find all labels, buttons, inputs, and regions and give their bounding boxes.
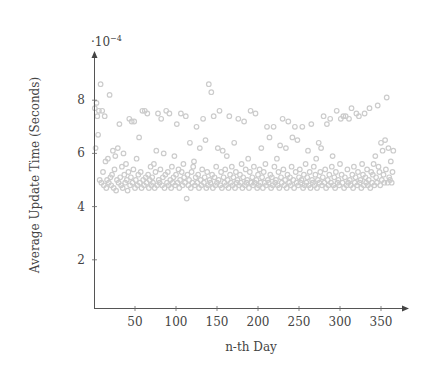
- data-point: [267, 135, 272, 140]
- data-point: [380, 148, 385, 153]
- y-tick-label: 2: [77, 253, 85, 267]
- data-point: [223, 167, 228, 172]
- data-point: [362, 111, 367, 116]
- data-point: [263, 162, 268, 167]
- data-point: [323, 167, 328, 172]
- data-point: [290, 135, 295, 140]
- data-point: [202, 175, 207, 180]
- data-point: [179, 111, 184, 116]
- data-point: [101, 170, 106, 175]
- x-tick-label: 350: [370, 315, 393, 329]
- data-point: [137, 135, 142, 140]
- scatter-points: [93, 82, 396, 201]
- data-point: [170, 164, 175, 169]
- data-point: [161, 151, 166, 156]
- y-scale-label: ·10−4: [91, 34, 122, 49]
- data-point: [345, 167, 350, 172]
- x-tick-label: 100: [165, 315, 188, 329]
- data-point: [246, 156, 251, 161]
- data-point: [321, 175, 326, 180]
- x-tick-label: 50: [127, 315, 142, 329]
- data-point: [121, 151, 126, 156]
- data-point: [152, 162, 157, 167]
- data-point: [293, 125, 298, 130]
- data-point: [194, 125, 199, 130]
- data-point: [280, 117, 285, 122]
- data-point: [390, 170, 395, 175]
- data-point: [316, 141, 321, 146]
- data-point: [349, 106, 354, 111]
- data-point: [112, 167, 117, 172]
- data-point: [102, 114, 107, 119]
- scatter-chart: 50100150200250300350 2468 ·10−4 n-th Day…: [0, 0, 428, 374]
- data-point: [156, 111, 161, 116]
- y-axis: [92, 51, 98, 308]
- data-point: [253, 111, 258, 116]
- data-point: [188, 141, 193, 146]
- data-point: [298, 167, 303, 172]
- y-tick-label: 8: [77, 93, 85, 107]
- data-point: [275, 156, 280, 161]
- data-point: [192, 159, 197, 164]
- data-point: [220, 148, 225, 153]
- data-point: [338, 162, 343, 167]
- data-point: [374, 175, 379, 180]
- data-point: [175, 122, 180, 127]
- data-point: [334, 109, 339, 114]
- data-point: [325, 122, 330, 127]
- data-point: [107, 93, 112, 98]
- data-point: [328, 117, 333, 122]
- data-point: [225, 154, 230, 159]
- x-tick-label: 250: [288, 315, 311, 329]
- data-point: [236, 117, 241, 122]
- data-point: [214, 164, 219, 169]
- data-point: [96, 133, 101, 138]
- data-point: [230, 164, 235, 169]
- data-point: [373, 154, 378, 159]
- data-point: [159, 117, 164, 122]
- x-axis-label: n-th Day: [225, 340, 277, 354]
- data-point: [272, 164, 277, 169]
- data-point: [376, 164, 381, 169]
- data-point: [384, 167, 389, 172]
- data-point: [259, 146, 264, 151]
- data-point: [184, 114, 189, 119]
- data-point: [131, 167, 136, 172]
- data-point: [321, 114, 326, 119]
- data-point: [207, 82, 212, 87]
- data-point: [360, 162, 365, 167]
- x-tick-label: 150: [206, 315, 229, 329]
- data-point: [295, 138, 300, 143]
- data-point: [278, 143, 283, 148]
- data-point: [211, 114, 216, 119]
- data-point: [271, 125, 276, 130]
- data-point: [209, 90, 214, 95]
- data-point: [129, 175, 134, 180]
- data-point: [248, 170, 253, 175]
- data-point: [98, 82, 103, 87]
- data-point: [347, 117, 352, 122]
- data-point: [356, 170, 361, 175]
- y-axis-label: Average Update Time (Seconds): [28, 77, 42, 274]
- data-point: [281, 167, 286, 172]
- data-point: [309, 122, 314, 127]
- data-point: [260, 175, 265, 180]
- data-point: [319, 146, 324, 151]
- data-point: [318, 170, 323, 175]
- data-point: [330, 164, 335, 169]
- data-point: [111, 148, 116, 153]
- data-point: [126, 170, 131, 175]
- x-axis-arrow-icon: [402, 306, 409, 312]
- data-point: [239, 162, 244, 167]
- data-point: [386, 146, 391, 151]
- data-point: [353, 175, 358, 180]
- data-point: [124, 162, 129, 167]
- x-tick-label: 300: [329, 315, 352, 329]
- data-point: [200, 167, 205, 172]
- data-point: [201, 117, 206, 122]
- data-point: [391, 148, 396, 153]
- data-point: [203, 138, 208, 143]
- data-point: [191, 164, 196, 169]
- data-point: [232, 141, 237, 146]
- data-point: [252, 164, 257, 169]
